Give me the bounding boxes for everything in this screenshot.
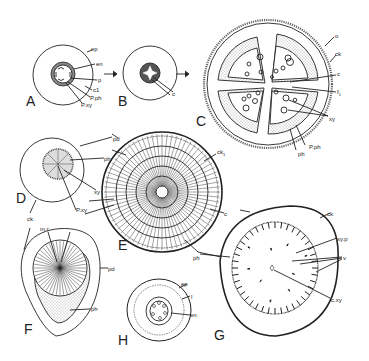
label-h-en: en: [190, 312, 197, 318]
label-d-xy: xy: [94, 189, 100, 195]
label-c-c: c: [337, 71, 340, 77]
panel-a-section: [33, 45, 97, 105]
label-a-c1: c1: [93, 87, 99, 93]
panel-label-a: A: [26, 94, 35, 108]
label-a-en: en: [96, 61, 103, 67]
panel-f-section: [21, 228, 108, 336]
label-c-o: o: [335, 33, 338, 39]
label-b-c: c: [172, 91, 175, 97]
root-diagram-stem-cross-sections: A B C D E F G H ep en p c1 P.ph P.xy c o…: [0, 0, 369, 361]
label-c-pph: P.ph: [309, 144, 321, 150]
diagram-drawing: [0, 0, 369, 361]
panel-h-section: [127, 279, 191, 341]
label-e-ph: ph: [193, 255, 200, 261]
label-e-ck1-sub: 1: [223, 152, 225, 157]
arrow-b-to-c: [176, 71, 189, 77]
label-d-pxy: P.xy: [76, 207, 87, 213]
panel-label-d: D: [16, 191, 26, 205]
label-g-xyp: xy.p: [337, 236, 348, 242]
panel-g-section: [200, 206, 342, 336]
label-f-mr: m.r: [40, 226, 49, 232]
label-d-pd: pd: [113, 136, 120, 142]
label-a-pxy: P.xy: [81, 102, 92, 108]
label-g-c: c: [224, 211, 227, 217]
label-a-p: p: [98, 77, 101, 83]
panel-label-b: B: [118, 94, 127, 108]
label-g-cxy: c.xy: [331, 297, 342, 303]
panel-label-h: H: [118, 333, 128, 347]
panel-b-section: [123, 46, 177, 100]
label-g-v: v: [343, 255, 346, 261]
panel-label-c: C: [196, 114, 206, 128]
label-c-f1: f1: [337, 89, 341, 97]
label-a-pph: P.ph: [90, 95, 102, 101]
panel-c-section: [204, 20, 336, 150]
label-g-ck: ck: [327, 211, 333, 217]
label-c-xy: xy: [329, 116, 335, 122]
panel-d-section: [20, 137, 114, 214]
panel-label-f: F: [24, 322, 33, 336]
arrow-a-to-b: [104, 71, 117, 77]
label-h-ep: ep: [181, 281, 188, 287]
panel-label-e: E: [118, 238, 127, 252]
label-d-ph: ph: [104, 156, 111, 162]
label-c-ph: ph: [298, 151, 305, 157]
label-a-ep: ep: [91, 46, 98, 52]
label-c-ck: ck: [335, 51, 341, 57]
panel-label-g: G: [214, 328, 225, 342]
label-c-f1-sub: 1: [339, 92, 341, 97]
label-f-pd: pd: [108, 266, 115, 272]
label-e-ck1: ck1: [217, 149, 225, 157]
label-f-ph: ph: [91, 306, 98, 312]
label-h-l: l: [191, 294, 192, 300]
label-f-ck: ck: [27, 216, 33, 222]
